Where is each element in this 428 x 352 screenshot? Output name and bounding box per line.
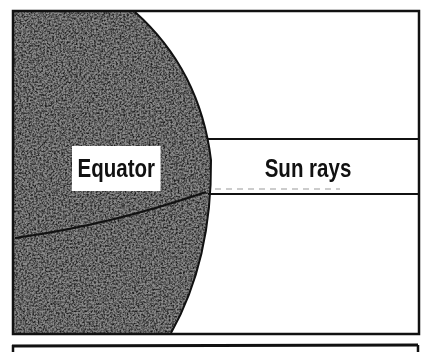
equator-label: Equator (72, 146, 161, 191)
lower-frame-edge (12, 345, 418, 346)
sun-rays-label: Sun rays (242, 146, 373, 191)
